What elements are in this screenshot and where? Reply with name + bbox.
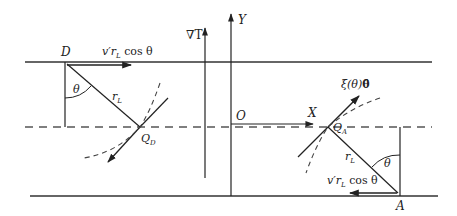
diagram: ∇T Y O X D v′rL cos θ θ rL QD θ rL v′rL … xyxy=(0,0,457,216)
a-rl-label: rL xyxy=(345,150,355,165)
d-theta-label: θ xyxy=(73,83,80,96)
origin-label: O xyxy=(236,109,246,123)
point-a-label: A xyxy=(395,199,405,213)
d-velocity-label: v′rL cos θ xyxy=(102,45,153,60)
qa-tangent-line xyxy=(298,127,328,157)
point-d-label: D xyxy=(60,45,71,59)
xi-theta-label: ξ(θ)θ̂ xyxy=(341,78,370,91)
x-axis-label: X xyxy=(307,106,317,120)
a-velocity-label: v′rL cos θ xyxy=(327,174,378,189)
a-theta-label: θ xyxy=(384,157,391,170)
qd-tangent-line xyxy=(140,98,168,127)
qd-label: QD xyxy=(141,132,156,147)
qa-label: QA xyxy=(333,121,347,136)
y-axis-label: Y xyxy=(238,13,247,27)
d-rl-label: rL xyxy=(112,90,122,105)
grad-t-label: ∇T xyxy=(186,28,202,42)
